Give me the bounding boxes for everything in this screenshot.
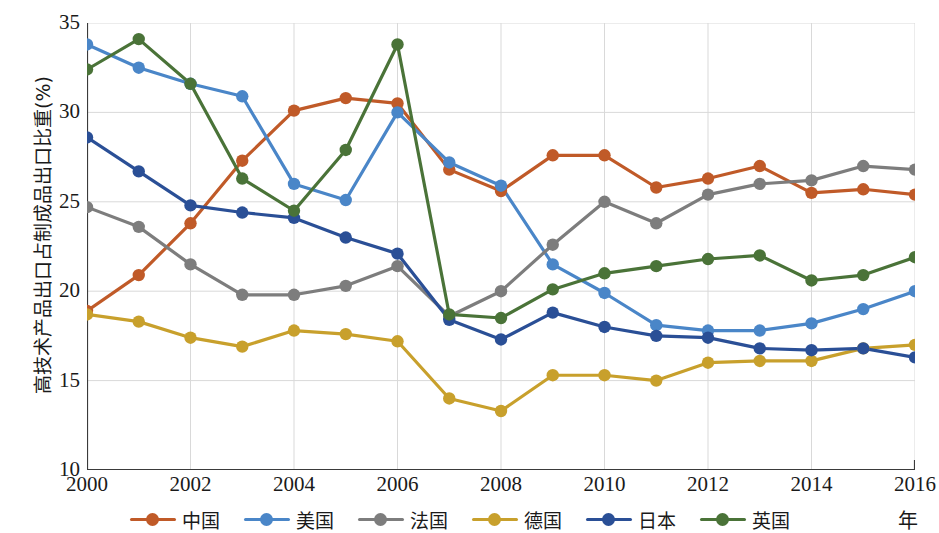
data-point [391, 247, 403, 259]
y-axis-tick-labels: 101520253035 [38, 0, 80, 533]
legend-item-1[interactable]: 美国 [244, 506, 334, 533]
data-point [909, 251, 915, 263]
data-point [184, 217, 196, 229]
data-point [184, 199, 196, 211]
legend-dot-icon [602, 513, 615, 526]
data-point [133, 221, 145, 233]
data-point [909, 188, 915, 200]
legend-swatch-icon [700, 512, 746, 526]
data-point [650, 260, 662, 272]
data-point [443, 156, 455, 168]
data-point [805, 274, 817, 286]
x-tick-label: 2006 [358, 474, 438, 495]
data-point [288, 104, 300, 116]
x-tick-label: 2008 [461, 474, 541, 495]
legend-label: 日本 [638, 506, 676, 533]
data-point [805, 355, 817, 367]
data-point [598, 321, 610, 333]
legend-item-2[interactable]: 法国 [358, 506, 448, 533]
x-tick-label: 2016 [875, 474, 939, 495]
legend-item-0[interactable]: 中国 [130, 506, 220, 533]
data-point [857, 183, 869, 195]
legend-swatch-icon [244, 512, 290, 526]
data-point [702, 253, 714, 265]
legend-dot-icon [374, 513, 387, 526]
data-point [702, 188, 714, 200]
data-point [598, 369, 610, 381]
data-point [495, 405, 507, 417]
data-point [805, 174, 817, 186]
legend-label: 中国 [182, 506, 220, 533]
legend-label: 英国 [752, 506, 790, 533]
legend-swatch-icon [130, 512, 176, 526]
data-point [702, 172, 714, 184]
data-point [133, 165, 145, 177]
data-point [702, 331, 714, 343]
data-point [184, 258, 196, 270]
data-point [340, 144, 352, 156]
data-point [754, 355, 766, 367]
data-point [650, 374, 662, 386]
data-point [650, 217, 662, 229]
data-point [133, 315, 145, 327]
legend-item-3[interactable]: 德国 [472, 506, 562, 533]
data-point [236, 90, 248, 102]
data-point [391, 260, 403, 272]
data-point [340, 92, 352, 104]
data-point [754, 160, 766, 172]
legend-label: 法国 [410, 506, 448, 533]
data-point [857, 342, 869, 354]
data-point [340, 328, 352, 340]
data-point [547, 369, 559, 381]
data-point [236, 154, 248, 166]
data-point [443, 392, 455, 404]
data-point [754, 249, 766, 261]
data-point [443, 308, 455, 320]
data-point [754, 342, 766, 354]
data-point [236, 206, 248, 218]
data-point [391, 335, 403, 347]
legend-item-5[interactable]: 英国 [700, 506, 790, 533]
data-point [598, 149, 610, 161]
x-tick-label: 2002 [151, 474, 231, 495]
data-point [598, 267, 610, 279]
data-point [805, 317, 817, 329]
data-point [598, 196, 610, 208]
data-point [184, 331, 196, 343]
data-point [391, 38, 403, 50]
chart-legend: 中国美国法国德国日本英国 [130, 505, 870, 533]
legend-dot-icon [260, 513, 273, 526]
data-point [288, 289, 300, 301]
data-point [340, 231, 352, 243]
chart-svg [87, 23, 915, 470]
data-point [133, 269, 145, 281]
data-point [650, 319, 662, 331]
x-axis-tick-labels: 200020022004200620082010201220142016 [0, 474, 939, 504]
data-point [857, 269, 869, 281]
legend-dot-icon [488, 513, 501, 526]
data-point [650, 181, 662, 193]
data-point [547, 239, 559, 251]
legend-label: 德国 [524, 506, 562, 533]
legend-swatch-icon [358, 512, 404, 526]
data-point [495, 285, 507, 297]
data-point [288, 205, 300, 217]
data-point [184, 78, 196, 90]
x-tick-label: 2004 [254, 474, 334, 495]
data-point [909, 339, 915, 351]
data-point [288, 324, 300, 336]
y-tick-label: 15 [44, 370, 80, 391]
data-point [87, 201, 93, 213]
legend-swatch-icon [586, 512, 632, 526]
legend-dot-icon [146, 513, 159, 526]
data-point [495, 333, 507, 345]
data-point [340, 280, 352, 292]
data-point [547, 283, 559, 295]
data-point [909, 163, 915, 175]
data-point [87, 38, 93, 50]
legend-item-4[interactable]: 日本 [586, 506, 676, 533]
data-point [650, 330, 662, 342]
data-point [909, 351, 915, 363]
data-point [236, 289, 248, 301]
data-point [857, 303, 869, 315]
